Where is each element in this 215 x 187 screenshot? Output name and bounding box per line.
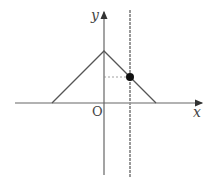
coordinate-diagram: x y O (0, 0, 215, 187)
intersection-point (126, 73, 134, 81)
x-axis-label: x (193, 104, 201, 120)
y-axis-label: y (90, 7, 100, 23)
origin-label: O (92, 104, 103, 119)
